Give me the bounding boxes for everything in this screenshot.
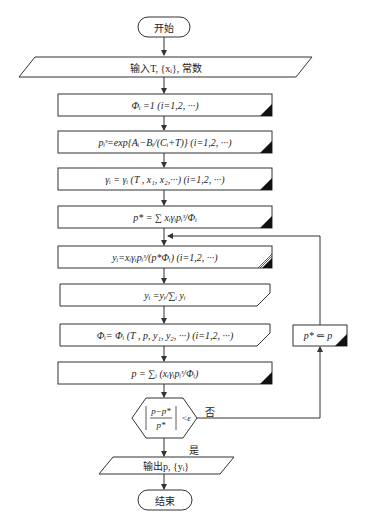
step-y-calc: yᵢ=xᵢγᵢpᵢˢ/(p*Φᵢ) (i=1,2, ···) [58, 246, 272, 268]
end-label: 结束 [138, 490, 192, 510]
step-y-normalize: yᵢ =yᵢ/∑ᵢ yᵢ [60, 284, 270, 306]
yes-label: 是 [187, 442, 201, 456]
step-p-star: p* = ∑ xᵢγᵢpᵢˢ/Φᵢ [58, 206, 272, 228]
start-label: 开始 [138, 17, 190, 37]
step-p-calc: p = ∑ᵢ (xᵢγᵢpᵢˢ/Φᵢ) [58, 362, 272, 384]
step-phi-update: Φᵢ= Φᵢ (T , p, y₁, y₂, ···) (i=1,2, ···) [60, 324, 270, 346]
decision-denominator: p* [148, 419, 174, 431]
input-label: 输入T, {xᵢ}, 常数 [35, 57, 297, 77]
step-init-phi: Φᵢ =1 (i=1,2, ···) [58, 94, 272, 116]
no-label: 否 [203, 404, 217, 418]
step-activity: γᵢ = γᵢ (T , x₁, x₂,···) (i=1,2, ···) [58, 168, 272, 190]
loop-label: p* ⇐ p [293, 325, 343, 346]
decision-numerator: p−p* [148, 405, 174, 417]
step-sat-pressure: pᵢˢ=exp{Aᵢ−Bᵢ/(Cᵢ+T)} (i=1,2, ···) [58, 131, 272, 153]
output-label: 输出p, {yᵢ} [106, 457, 226, 474]
decision-epsilon: <ε [176, 412, 196, 424]
